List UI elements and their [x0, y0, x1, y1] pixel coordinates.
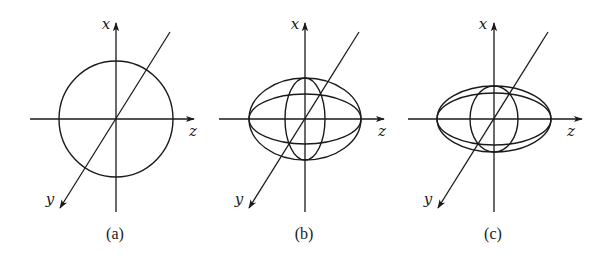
z-axis-label: z	[377, 122, 386, 140]
y-axis-label: y	[234, 190, 244, 208]
panel-caption: (c)	[484, 225, 502, 243]
y-axis	[438, 32, 548, 208]
x-axis-label: x	[291, 15, 300, 33]
panel-caption: (b)	[295, 225, 314, 243]
x-axis-label: x	[102, 15, 111, 33]
x-axis-label: x	[479, 15, 488, 33]
panels-group: xzy(a)xzy(b)xzy(c)	[30, 15, 582, 243]
panel-a: xzy(a)	[30, 15, 197, 243]
ellipsoid-figure: xzy(a)xzy(b)xzy(c)	[0, 0, 611, 260]
panel-caption: (a)	[106, 225, 124, 243]
z-axis-label: z	[566, 122, 575, 140]
panel-b: xzy(b)	[219, 15, 386, 243]
y-axis-label: y	[423, 190, 433, 208]
y-axis	[60, 32, 170, 208]
z-axis-label: z	[188, 122, 197, 140]
panel-c: xzy(c)	[408, 15, 582, 243]
y-axis	[249, 32, 359, 208]
y-axis-label: y	[45, 190, 55, 208]
